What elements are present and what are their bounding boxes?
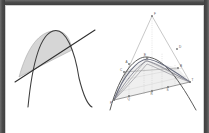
base-mid-left-point-label: Q — [128, 97, 131, 101]
frame-left-rail — [0, 0, 5, 133]
upper-left-point — [123, 71, 125, 73]
parabola-secant-figure — [6, 6, 106, 133]
apex-point — [151, 15, 153, 17]
apex-point-label: F — [154, 12, 156, 16]
base-left-point-label: P — [110, 101, 112, 105]
base-mid-right-point-label: S — [167, 88, 169, 92]
parabola-construction-figure: F E D C B A P Q R S T — [106, 6, 203, 133]
upper-left-point-label: C — [120, 68, 123, 72]
upper-right-point — [176, 48, 178, 50]
shaded-segment — [19, 31, 72, 77]
summit-point-label: E — [144, 53, 146, 57]
right-vertex-point-label: B — [180, 64, 182, 68]
left-vertex-point-label: A — [126, 60, 129, 64]
base-mid-point-label: R — [151, 92, 154, 96]
left-vertex-point — [128, 63, 130, 65]
frame-right-rail — [204, 0, 209, 133]
base-left-point — [113, 99, 115, 101]
frame-top-rail — [0, 0, 209, 5]
figure-panel: F E D C B A P Q R S T — [0, 0, 209, 133]
right-vertex-point — [177, 67, 179, 69]
summit-point — [146, 57, 148, 59]
figure-canvas-area: F E D C B A P Q R S T — [6, 6, 203, 133]
upper-right-point-label: D — [179, 45, 182, 49]
base-right-point-label: T — [192, 78, 194, 82]
